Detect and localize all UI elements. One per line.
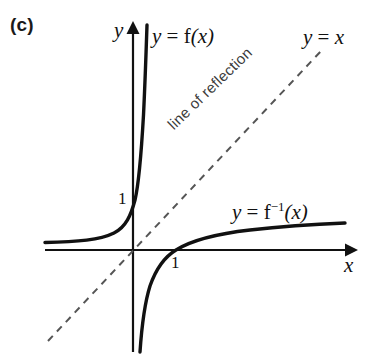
figure-container: (c) y = f(x) y = x y = f−1(x) line of re… bbox=[0, 0, 377, 358]
curve-f bbox=[45, 25, 147, 243]
label-f-fn: f bbox=[184, 24, 191, 48]
y-axis-label: y bbox=[114, 20, 123, 41]
x-axis bbox=[45, 244, 358, 257]
curve-label-f-inverse: y = f−1(x) bbox=[232, 200, 308, 223]
label-identity-lhs: y bbox=[303, 25, 312, 49]
curve-f-inverse bbox=[140, 223, 345, 352]
label-identity-eq: = bbox=[318, 25, 330, 49]
label-finv-exponent: −1 bbox=[271, 199, 285, 214]
label-finv-eq: = bbox=[247, 200, 259, 224]
label-finv-lhs: y bbox=[232, 200, 241, 224]
line-of-reflection bbox=[48, 50, 322, 341]
line-label-identity: y = x bbox=[303, 27, 344, 48]
graph-canvas bbox=[0, 0, 377, 358]
tick-label-x-1: 1 bbox=[171, 254, 180, 271]
part-label: (c) bbox=[10, 14, 34, 36]
curve-label-f: y = f(x) bbox=[152, 26, 214, 47]
label-identity-rhs: x bbox=[335, 25, 344, 49]
x-axis-label: x bbox=[344, 255, 353, 276]
label-f-eq: = bbox=[167, 24, 179, 48]
label-finv-arg: (x) bbox=[285, 200, 308, 224]
label-f-lhs: y bbox=[152, 24, 161, 48]
label-f-arg: (x) bbox=[191, 24, 214, 48]
label-finv-fn: f bbox=[264, 200, 271, 224]
tick-label-y-1: 1 bbox=[118, 190, 127, 207]
